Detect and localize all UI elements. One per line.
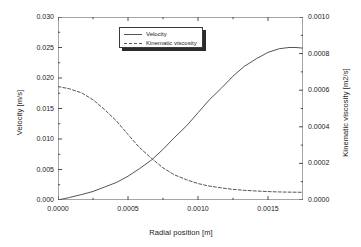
y-tick-left-1: 0.005 [0, 166, 54, 173]
y-tick-left-4: 0.020 [0, 74, 54, 81]
x-axis-title: Radial position [m] [58, 228, 304, 237]
y-tick-left-3: 0.015 [0, 105, 54, 112]
legend-label-velocity: Velocity [146, 30, 167, 38]
y-tick-right-4: 0.0008 [308, 50, 361, 57]
x-tick-1: 0.0005 [98, 205, 158, 212]
y-tick-left-0: 0.000 [0, 196, 54, 203]
y-tick-left-2: 0.010 [0, 135, 54, 142]
y-axis-right-title: Kinematic viscosity [m2/s] [341, 53, 350, 173]
legend-item-velocity: Velocity [123, 30, 199, 38]
y-tick-right-0: 0.0000 [308, 196, 361, 203]
legend-swatch-dashed-icon [123, 40, 143, 47]
legend-swatch-solid-icon [123, 31, 143, 38]
y-tick-right-3: 0.0006 [308, 86, 361, 93]
legend-label-kinematic-viscosity: Kinematic viscosity [146, 39, 197, 47]
x-tick-2: 0.0010 [168, 205, 228, 212]
chart-legend: Velocity Kinematic viscosity [119, 27, 203, 48]
y-tick-right-5: 0.0010 [308, 13, 361, 20]
chart-figure: Velocity [m/s] Kinematic viscosity [m2/s… [0, 0, 361, 247]
y-tick-right-1: 0.0002 [308, 159, 361, 166]
series-line-kinematic-viscosity [58, 87, 303, 193]
x-tick-3: 0.0015 [238, 205, 298, 212]
x-tick-0: 0.0000 [28, 205, 88, 212]
legend-item-kinematic-viscosity: Kinematic viscosity [123, 39, 199, 47]
y-tick-left-5: 0.025 [0, 44, 54, 51]
y-tick-right-2: 0.0004 [308, 123, 361, 130]
y-tick-left-6: 0.030 [0, 13, 54, 20]
y-axis-left-title: Velocity [m/s] [15, 53, 24, 173]
